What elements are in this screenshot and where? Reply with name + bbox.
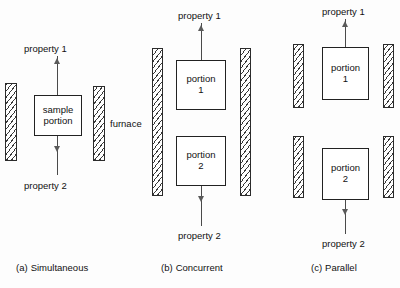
panel-b-box-2-line-2: 2 xyxy=(198,161,203,172)
panel-a-property-1-arrowhead-icon xyxy=(54,58,60,64)
panel-c-property-2-arrowhead-icon xyxy=(342,209,348,215)
panel-c-furnace-wall-upper-right xyxy=(383,44,394,108)
panel-a-furnace-wall-right xyxy=(93,86,105,161)
panel-c-box-2-line-2: 2 xyxy=(343,174,348,185)
panel-c-furnace-wall-lower-left xyxy=(293,136,304,198)
panel-c-property-2-label: property 2 xyxy=(322,239,365,249)
panel-c-property-1-arrowhead-icon xyxy=(342,21,348,27)
panel-a-sample-portion-box: sample portion xyxy=(34,95,82,136)
panel-c-furnace-wall-lower-right xyxy=(383,136,394,198)
panel-b-furnace-wall-right xyxy=(240,48,251,196)
panel-c-box-1-line-2: 1 xyxy=(343,74,348,85)
furnace-label: furnace xyxy=(110,119,142,129)
panel-b-property-2-label: property 2 xyxy=(178,231,221,241)
panel-b-property-2-arrow-stem xyxy=(201,186,202,226)
panel-a-box-line-1: sample xyxy=(43,105,74,116)
panel-b-property-1-label: property 1 xyxy=(178,11,221,21)
panel-a-caption: (a)Simultaneous xyxy=(16,263,88,273)
figure-thermal-analysis-configurations: property 1 furnace sample portion proper… xyxy=(0,0,400,288)
panel-a-property-2-label: property 2 xyxy=(24,181,67,191)
panel-c-caption: (c)Parallel xyxy=(311,263,357,273)
panel-a-box-line-2: portion xyxy=(43,116,72,127)
panel-b-portion-1-box: portion 1 xyxy=(176,60,226,110)
panel-b-caption-index: (b) xyxy=(161,262,173,273)
panel-a-furnace-wall-left xyxy=(5,83,17,161)
panel-a-property-1-label: property 1 xyxy=(24,44,67,54)
panel-c-caption-index: (c) xyxy=(311,262,322,273)
panel-c-furnace-wall-upper-left xyxy=(293,44,304,108)
panel-c-property-2-arrow-stem xyxy=(345,200,346,234)
panel-b-portion-2-box: portion 2 xyxy=(176,136,226,186)
panel-a-caption-index: (a) xyxy=(16,262,28,273)
panel-c-caption-text: Parallel xyxy=(325,262,357,273)
panel-a-property-2-arrow-stem xyxy=(57,136,58,175)
panel-c-portion-1-box: portion 1 xyxy=(322,47,369,100)
panel-a-caption-text: Simultaneous xyxy=(31,262,89,273)
panel-b-property-1-arrowhead-icon xyxy=(198,25,204,31)
panel-a-property-2-arrowhead-icon xyxy=(54,146,60,152)
panel-b-caption: (b)Concurrent xyxy=(161,263,223,273)
panel-c-portion-2-box: portion 2 xyxy=(322,148,369,200)
panel-c-box-1-line-1: portion xyxy=(331,63,360,74)
panel-b-furnace-wall-left xyxy=(152,48,163,196)
panel-b-box-1-line-2: 1 xyxy=(198,85,203,96)
panel-b-property-2-arrowhead-icon xyxy=(198,196,204,202)
panel-c-property-1-label: property 1 xyxy=(322,7,365,17)
panel-b-caption-text: Concurrent xyxy=(176,262,223,273)
